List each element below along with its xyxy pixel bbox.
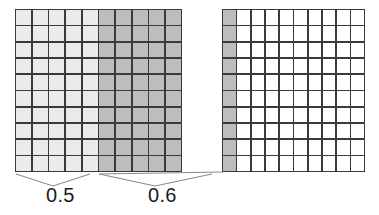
grid-cell — [83, 10, 98, 25]
grid-cell — [16, 156, 31, 171]
grid-cell — [309, 91, 322, 106]
grid-cell — [116, 124, 131, 139]
grid-cell — [337, 26, 350, 41]
grid-cell — [99, 140, 114, 155]
grid-cell — [66, 59, 81, 74]
grid-cell — [294, 26, 307, 41]
grid-cell — [33, 140, 48, 155]
grid-cell — [166, 156, 181, 171]
grid-cell — [237, 59, 250, 74]
grid-cell — [149, 26, 164, 41]
grid-cell — [280, 26, 293, 41]
grid-cell — [252, 156, 265, 171]
grid-cell — [66, 43, 81, 58]
grid-cell — [83, 43, 98, 58]
grid-cell — [99, 10, 114, 25]
grid-cell — [280, 140, 293, 155]
grid-cell — [149, 156, 164, 171]
grid-cell — [99, 26, 114, 41]
grid-cell — [294, 140, 307, 155]
grid-cell — [266, 26, 279, 41]
grid-cell — [323, 10, 336, 25]
grid-cell — [66, 124, 81, 139]
grid-cell — [237, 91, 250, 106]
grid-cell — [237, 26, 250, 41]
grid-cell — [237, 43, 250, 58]
grid-cell — [49, 43, 64, 58]
grid-cell — [323, 124, 336, 139]
grid-cell — [166, 140, 181, 155]
grid-cell — [294, 43, 307, 58]
grid-cell — [49, 140, 64, 155]
grid-cell — [266, 108, 279, 123]
grid-cell — [166, 75, 181, 90]
grid-cell — [309, 75, 322, 90]
grid-cell — [223, 59, 236, 74]
grid-cell — [99, 91, 114, 106]
grid-cell — [252, 124, 265, 139]
grid-cell — [149, 75, 164, 90]
grid-cell — [223, 108, 236, 123]
grid-cell — [116, 156, 131, 171]
grid-cell — [294, 108, 307, 123]
detail-grid — [222, 9, 365, 172]
grid-cell — [294, 59, 307, 74]
grid-cell — [280, 43, 293, 58]
grid-cell — [266, 156, 279, 171]
grid-cell — [49, 26, 64, 41]
grid-cell — [49, 91, 64, 106]
grid-cell — [252, 59, 265, 74]
grid-cell — [252, 10, 265, 25]
grid-cell — [337, 108, 350, 123]
grid-cell — [133, 43, 148, 58]
grid-cell — [337, 10, 350, 25]
grid-cell — [83, 26, 98, 41]
grid-cell — [133, 26, 148, 41]
grid-cell — [16, 108, 31, 123]
grid-cell — [337, 75, 350, 90]
grid-cell — [166, 26, 181, 41]
grid-cell — [83, 108, 98, 123]
grid-cell — [309, 43, 322, 58]
grid-cell — [33, 75, 48, 90]
grid-cell — [294, 10, 307, 25]
grid-cell — [351, 26, 364, 41]
grid-cell — [323, 26, 336, 41]
grid-cell — [323, 140, 336, 155]
grid-cell — [280, 156, 293, 171]
grid-cell — [252, 26, 265, 41]
grid-cell — [323, 108, 336, 123]
grid-cell — [16, 59, 31, 74]
grid-cell — [133, 75, 148, 90]
diagram-canvas: 0.5 0.6 — [0, 0, 379, 215]
grid-cell — [294, 156, 307, 171]
grid-cell — [309, 156, 322, 171]
label-second-tick: 0.6 — [148, 184, 177, 207]
grid-cell — [49, 124, 64, 139]
grid-cell — [280, 108, 293, 123]
grid-cell — [83, 91, 98, 106]
grid-cell — [33, 26, 48, 41]
grid-cell — [309, 108, 322, 123]
grid-cell — [237, 124, 250, 139]
grid-cell — [337, 156, 350, 171]
grid-cell — [133, 108, 148, 123]
grid-cell — [83, 140, 98, 155]
grid-cell — [66, 75, 81, 90]
grid-cell — [252, 43, 265, 58]
grid-cell — [351, 124, 364, 139]
grid-cell — [133, 156, 148, 171]
grid-cell — [149, 59, 164, 74]
grid-cell — [116, 59, 131, 74]
grid-cell — [280, 91, 293, 106]
grid-cell — [16, 124, 31, 139]
grid-cell — [16, 26, 31, 41]
grid-cell — [83, 156, 98, 171]
grid-cell — [16, 91, 31, 106]
grid-cell — [309, 59, 322, 74]
grid-cell — [266, 59, 279, 74]
grid-cell — [294, 124, 307, 139]
grid-cell — [351, 75, 364, 90]
grid-cell — [266, 140, 279, 155]
grid-cell — [133, 124, 148, 139]
